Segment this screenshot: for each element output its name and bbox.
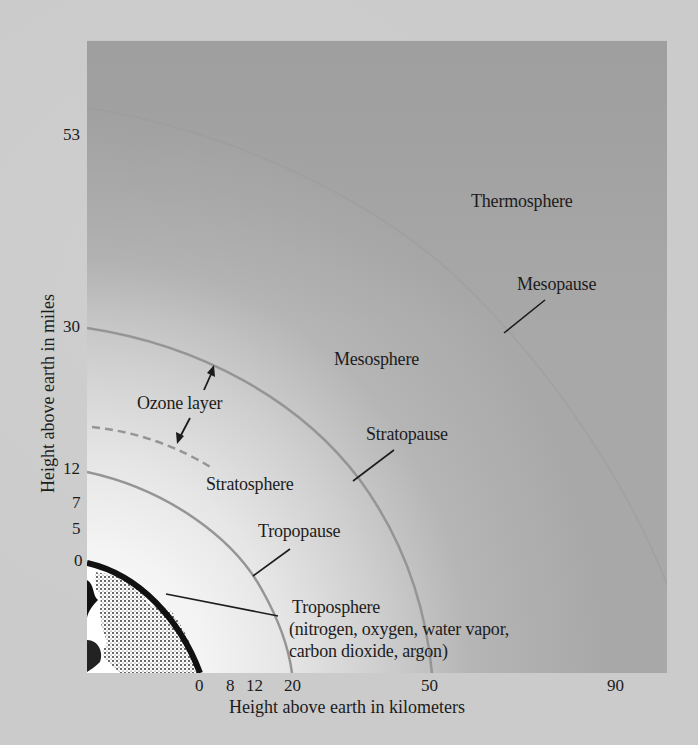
label-mesopause: Mesopause <box>517 274 596 294</box>
troposphere-leader <box>166 594 278 616</box>
x-tick-90: 90 <box>607 677 624 695</box>
y-tick-5: 5 <box>72 520 81 538</box>
label-troposphere-gases-1: (nitrogen, oxygen, water vapor, <box>289 619 509 639</box>
y-tick-7: 7 <box>72 494 81 512</box>
y-axis-title: Height above earth in miles <box>38 294 58 493</box>
x-tick-0: 0 <box>195 677 204 695</box>
label-thermosphere: Thermosphere <box>471 191 573 211</box>
label-stratopause: Stratopause <box>366 424 448 444</box>
y-tick-0: 0 <box>74 552 83 570</box>
earth-globe <box>87 563 200 673</box>
label-troposphere-gases-2: carbon dioxide, argon) <box>289 641 448 661</box>
y-tick-53: 53 <box>63 126 80 144</box>
label-tropopause: Tropopause <box>258 521 340 541</box>
x-tick-50: 50 <box>421 677 438 695</box>
x-tick-20: 20 <box>284 677 301 695</box>
x-axis-title: Height above earth in kilometers <box>229 697 465 717</box>
ozone-dashed-arc <box>92 427 212 468</box>
label-troposphere: Troposphere <box>292 597 380 617</box>
ozone-arrow-up-icon <box>204 365 215 390</box>
label-mesosphere: Mesosphere <box>334 349 419 369</box>
mesopause-leader <box>504 300 545 333</box>
stratopause-leader <box>353 450 394 481</box>
x-tick-12: 12 <box>246 677 263 695</box>
x-tick-8: 8 <box>226 677 235 695</box>
ozone-arrow-down-icon <box>176 418 190 444</box>
label-stratosphere: Stratosphere <box>206 474 294 494</box>
tropopause-leader <box>253 549 290 576</box>
label-ozone-layer: Ozone layer <box>137 393 222 413</box>
y-tick-30: 30 <box>63 318 80 336</box>
y-tick-12: 12 <box>63 460 80 478</box>
